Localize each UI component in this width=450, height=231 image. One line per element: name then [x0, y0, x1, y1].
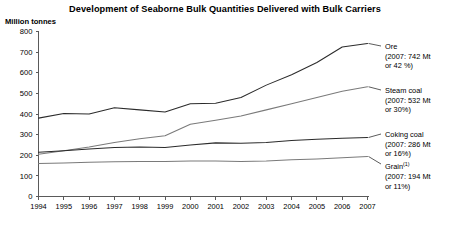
y-tick-label: 500: [20, 89, 33, 98]
legend-value-line-2: or 11%): [385, 182, 431, 192]
legend-value-line-1: (2007: 286 Mt: [385, 140, 431, 150]
legend-value-line-2: or 16%): [385, 149, 431, 159]
legend-entry-coking-coal: Coking coal(2007: 286 Mtor 16%): [385, 130, 431, 159]
x-tick-label: 1995: [56, 202, 72, 211]
x-tick-label: 1996: [81, 202, 97, 211]
x-tick-label: 1997: [106, 202, 122, 211]
legend-entry-ore: Ore(2007: 742 Mtor 42 %): [385, 42, 431, 71]
x-tick-label: 2001: [207, 202, 223, 211]
x-axis-tick-group: 1994199519961997199819992000200120022003…: [30, 197, 375, 212]
series-line-coking-coal: [39, 138, 368, 153]
leader-line-grain: [369, 156, 382, 164]
x-tick-label: 1999: [157, 202, 173, 211]
legend-value-line-1: (2007: 194 Mt: [385, 172, 431, 182]
legend-series-name: Coking coal: [385, 130, 431, 140]
y-tick-label: 600: [20, 68, 33, 77]
x-tick-label: 2003: [258, 202, 274, 211]
leader-line-steam-coal: [369, 87, 382, 90]
x-tick-label: 1998: [132, 202, 148, 211]
legend-value-line-1: (2007: 532 Mt: [385, 96, 431, 106]
y-tick-label: 800: [20, 27, 33, 36]
x-tick-label: 2006: [334, 202, 350, 211]
y-tick-label: 200: [20, 151, 33, 160]
legend-series-name: Grain(1): [385, 160, 431, 172]
series-group: [39, 43, 368, 163]
legend-value-line-1: (2007: 742 Mt: [385, 52, 431, 62]
leader-line-group: [369, 43, 382, 164]
line-chart-svg: 0100200300400500600700800 19941995199619…: [0, 0, 450, 231]
legend-series-name: Ore: [385, 42, 431, 52]
legend-footnote-marker: (1): [403, 161, 410, 167]
chart-container: Development of Seaborne Bulk Quantities …: [0, 0, 450, 231]
y-tick-label: 400: [20, 110, 33, 119]
legend-entry-steam-coal: Steam coal(2007: 532 Mtor 30%): [385, 86, 431, 115]
x-tick-label: 2005: [309, 202, 325, 211]
legend-value-line-2: or 30%): [385, 105, 431, 115]
x-tick-label: 2000: [182, 202, 198, 211]
leader-line-ore: [369, 43, 382, 46]
legend-value-line-2: or 42 %): [385, 61, 431, 71]
leader-line-coking-coal: [369, 134, 382, 138]
y-axis-tick-group: 0100200300400500600700800: [20, 27, 39, 201]
x-tick-label: 1994: [30, 202, 46, 211]
y-tick-label: 100: [20, 172, 33, 181]
legend-series-name: Steam coal: [385, 86, 431, 96]
series-line-ore: [39, 43, 368, 118]
y-tick-label: 300: [20, 130, 33, 139]
series-line-grain: [39, 156, 368, 163]
y-tick-label: 0: [28, 192, 32, 201]
y-tick-label: 700: [20, 48, 33, 57]
legend-entry-grain: Grain(1)(2007: 194 Mtor 11%): [385, 160, 431, 191]
x-tick-label: 2004: [283, 202, 299, 211]
x-tick-label: 2007: [359, 202, 375, 211]
x-tick-label: 2002: [233, 202, 249, 211]
